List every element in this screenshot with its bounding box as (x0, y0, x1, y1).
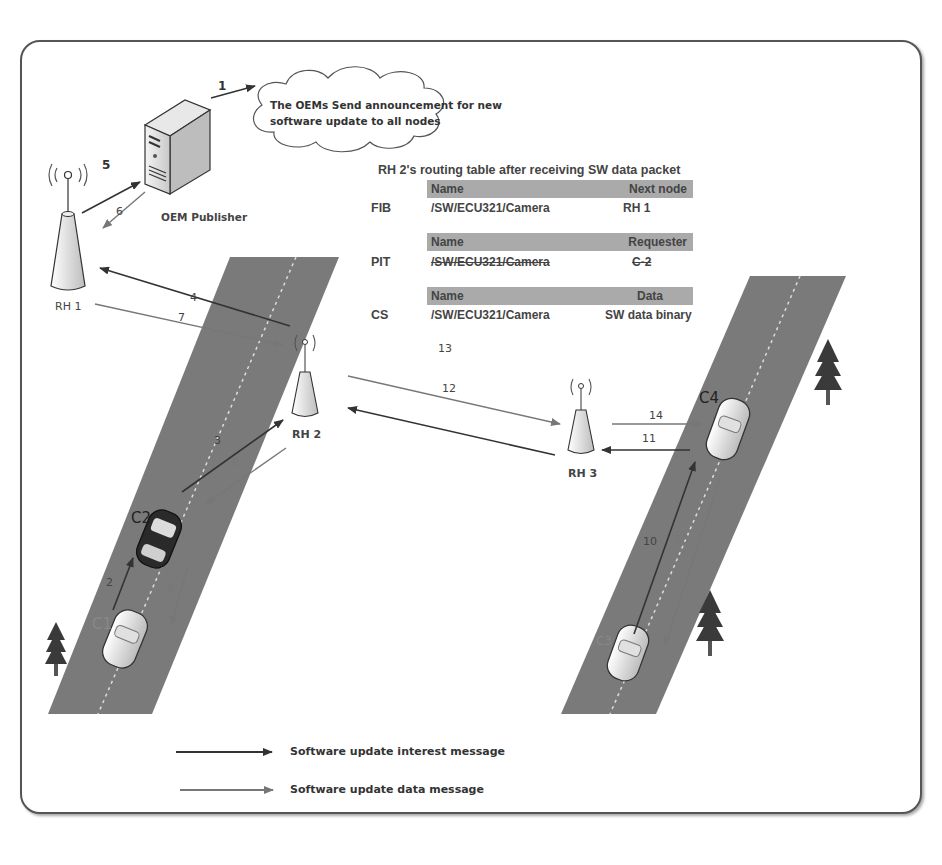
cs-row-name: /SW/ECU321/Camera (431, 308, 550, 322)
pit-row: /SW/ECU321/Camera C-2 (427, 253, 693, 271)
step-11-label: 11 (642, 432, 656, 445)
cs-label: CS (371, 308, 388, 322)
step-7-label: 7 (178, 311, 185, 324)
routing-table-title: RH 2's routing table after receiving SW … (378, 163, 680, 177)
cs-header: Name Data (427, 287, 693, 305)
step-10-label: 10 (643, 535, 657, 548)
pit-row-name: /SW/ECU321/Camera (431, 255, 550, 269)
fib-header-value: Next node (629, 182, 687, 196)
fib-header: Name Next node (427, 180, 693, 198)
pit-header-name: Name (431, 235, 464, 249)
step-6-label: 6 (116, 205, 123, 218)
arrow-step-12 (348, 408, 555, 455)
pit-header: Name Requester (427, 233, 693, 251)
cs-header-value: Data (637, 289, 663, 303)
cs-row-value: SW data binary (605, 308, 692, 322)
car-c3-label: C3 (596, 634, 612, 648)
cloud-announcement-text: The OEMs Send announcement for new softw… (270, 97, 432, 129)
cloud-text-line-2: software update to all nodes (270, 113, 432, 129)
rh3-label: RH 3 (568, 467, 597, 480)
fib-header-name: Name (431, 182, 464, 196)
step-3-label: 3 (214, 434, 221, 447)
cs-row: /SW/ECU321/Camera SW data binary (427, 306, 693, 324)
step-14-label: 14 (649, 409, 663, 422)
step-5-label: 5 (102, 158, 110, 172)
arrow-step-5 (82, 182, 140, 213)
fib-row-value: RH 1 (623, 201, 650, 215)
right-road (561, 276, 846, 714)
cloud-text-line-1: The OEMs Send announcement for new (270, 97, 432, 113)
pit-label: PIT (371, 255, 390, 269)
arrow-step-6 (103, 192, 145, 228)
fib-row: /SW/ECU321/Camera RH 1 (427, 199, 693, 217)
step-15-label: 15 (675, 533, 689, 546)
legend-interest-label: Software update interest message (290, 745, 505, 758)
rh1-tower-icon (49, 164, 87, 290)
tree-icon-left (45, 622, 67, 676)
step-9-label: 9 (167, 582, 174, 595)
fib-label: FIB (371, 201, 391, 215)
rh1-label: RH 1 (55, 300, 81, 313)
rh2-tower-icon (292, 335, 318, 417)
car-c2-label: C2 (131, 509, 151, 527)
step-2-label: 2 (106, 576, 113, 589)
step-4-label: 4 (190, 291, 197, 304)
legend-arrows (176, 752, 273, 790)
rh3-tower-icon (568, 379, 594, 454)
oem-publisher-label: OEM Publisher (161, 211, 247, 223)
step-8-label: 8 (232, 456, 239, 469)
fib-row-name: /SW/ECU321/Camera (431, 201, 550, 215)
car-c4-label: C4 (699, 389, 719, 407)
step-13-label: 13 (438, 342, 452, 355)
car-c1-label: C1 (92, 615, 112, 633)
cs-header-name: Name (431, 289, 464, 303)
pit-row-value: C-2 (632, 255, 651, 269)
diagram-canvas (0, 0, 942, 865)
rh2-label: RH 2 (292, 428, 321, 441)
legend-data-label: Software update data message (290, 783, 484, 796)
step-1-label: 1 (218, 79, 226, 93)
tree-icon-right-top (814, 339, 842, 405)
server-icon (145, 100, 210, 194)
step-12-label: 12 (442, 382, 456, 395)
pit-header-value: Requester (628, 235, 687, 249)
